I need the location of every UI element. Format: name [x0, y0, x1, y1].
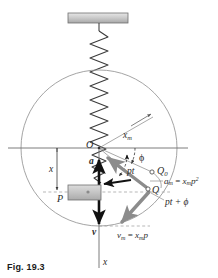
label-velocity-vector: v: [92, 228, 96, 238]
label-angle-pt-phi-text: pt + ϕ: [165, 197, 188, 207]
acceleration-projection-arrow: [104, 180, 131, 184]
velocity-vector-arrow: [122, 192, 149, 222]
vel-eq: =: [125, 230, 135, 240]
label-acceleration-magnitude: am = xmp2: [164, 176, 198, 186]
label-angle-pt-plus-phi: pt + ϕ: [165, 198, 188, 208]
accel-exp: 2: [195, 176, 198, 182]
label-phase-angle-phi: ϕ: [139, 153, 144, 163]
label-displacement-x: x: [49, 165, 53, 175]
label-axis-x: x: [103, 258, 107, 268]
label-point-q: Q: [152, 185, 159, 195]
label-velocity-magnitude: vm = xmp: [117, 231, 148, 241]
label-origin: O: [86, 140, 93, 150]
label-amplitude-xm: xm: [123, 131, 132, 141]
label-amplitude-sub: m: [127, 134, 132, 141]
mass-block: [68, 185, 101, 200]
label-acceleration-vector: a: [89, 157, 94, 167]
ceiling-support: [68, 13, 128, 23]
vel-p: p: [143, 230, 148, 240]
accel-eq: =: [173, 176, 183, 186]
figure-19-3-diagram: [0, 0, 218, 278]
label-point-p: P: [57, 194, 63, 204]
label-angle-pt: pt: [127, 167, 134, 177]
figure-caption: Fig. 19.3: [7, 262, 45, 272]
